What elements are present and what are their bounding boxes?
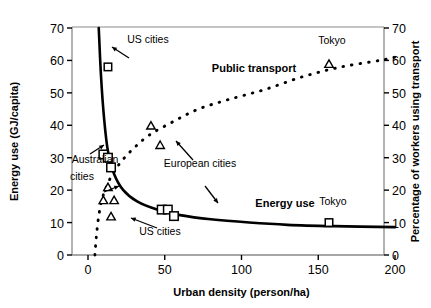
data-point-square bbox=[104, 63, 112, 71]
data-point-square bbox=[325, 219, 333, 227]
annotation-us-cities-top: US cities bbox=[127, 33, 168, 45]
annotation-australian-cities-line1: Australian bbox=[72, 153, 119, 165]
annotation-tokyo-transport: Tokyo bbox=[318, 34, 346, 46]
right-tick-label: 10 bbox=[392, 217, 406, 231]
left-tick-label: 10 bbox=[50, 217, 64, 231]
right-y-axis-title: Percentage of workers using transport bbox=[409, 40, 421, 242]
annotation-european-cities: European cities bbox=[164, 157, 236, 169]
left-tick-label: 50 bbox=[50, 87, 64, 101]
right-tick-label: 40 bbox=[392, 119, 406, 133]
x-tick-label: 50 bbox=[158, 263, 172, 277]
left-tick-label: 20 bbox=[50, 184, 64, 198]
left-tick-label: 0 bbox=[57, 249, 64, 263]
annotation-public-transport: Public transport bbox=[212, 62, 297, 74]
right-tick-label: 30 bbox=[392, 152, 406, 166]
right-tick-label: 20 bbox=[392, 184, 406, 198]
energy-transport-chart: 010203040506070 010203040506070 05010015… bbox=[0, 0, 431, 308]
left-y-axis-title: Energy use (GJ/capita) bbox=[8, 82, 20, 202]
data-point-square bbox=[170, 212, 179, 221]
x-axis-title: Urban density (person/ha) bbox=[173, 286, 310, 298]
annotation-tokyo-energy: Tokyo bbox=[319, 195, 347, 207]
right-tick-label: 70 bbox=[392, 22, 406, 36]
x-tick-label: 0 bbox=[85, 263, 92, 277]
x-tick-label: 200 bbox=[385, 263, 406, 277]
x-tick-label: 150 bbox=[308, 263, 329, 277]
annotation-australian-cities-line2: cities bbox=[70, 170, 94, 182]
annotation-energy-use: Energy use bbox=[255, 197, 314, 209]
left-tick-label: 40 bbox=[50, 119, 64, 133]
x-tick-label: 100 bbox=[231, 263, 252, 277]
left-tick-label: 60 bbox=[50, 54, 64, 68]
left-tick-label: 70 bbox=[50, 22, 64, 36]
left-tick-label: 30 bbox=[50, 152, 64, 166]
right-tick-label: 50 bbox=[392, 87, 406, 101]
chart-background bbox=[0, 0, 431, 308]
chart-container: 010203040506070 010203040506070 05010015… bbox=[0, 0, 431, 308]
annotation-us-cities-bottom: US cities bbox=[139, 225, 180, 237]
